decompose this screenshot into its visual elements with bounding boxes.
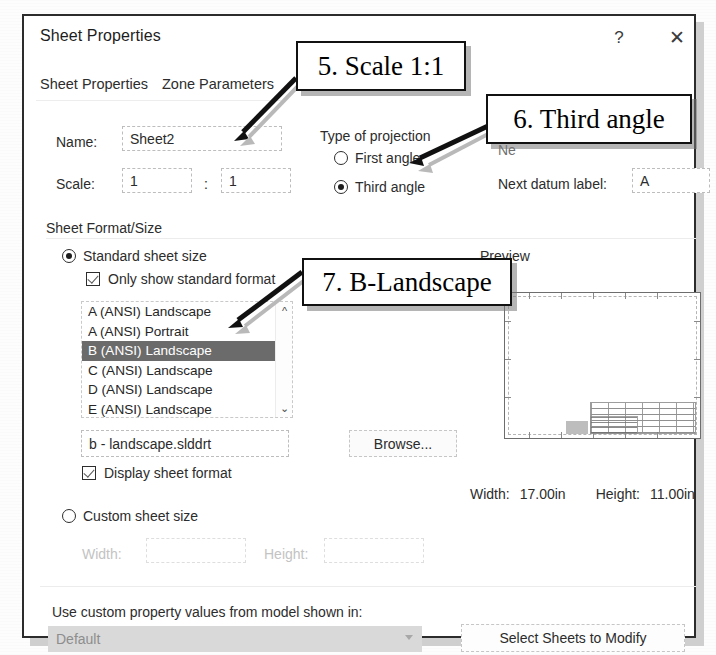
arrow-to-b-landscape: [228, 272, 306, 334]
arrow-to-name-field: [234, 78, 300, 146]
callout-5: 5. Scale 1:1: [296, 41, 466, 91]
callout-6: 6. Third angle: [486, 94, 692, 144]
callout-7: 7. B-Landscape: [302, 258, 512, 306]
arrow-to-third-angle: [409, 126, 492, 173]
